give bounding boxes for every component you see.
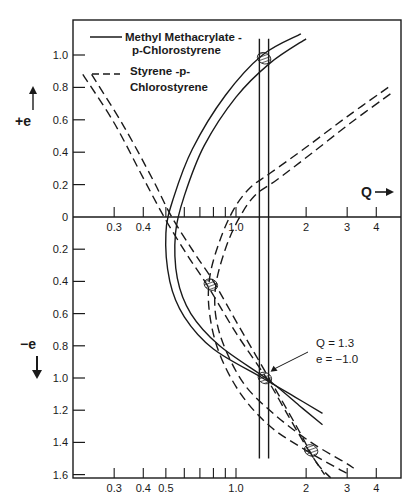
- y-tick-label: 1.2: [53, 404, 68, 416]
- up-arrow-icon: [29, 86, 37, 94]
- q-tick-label-middle: 4: [373, 221, 379, 233]
- q-tick-label-bottom: 1.0: [228, 482, 243, 494]
- y-tick-label: 0.2: [53, 243, 68, 255]
- hatched-intersection-region: [202, 277, 219, 293]
- negative-e-label: −e: [20, 336, 36, 352]
- positive-e-label: +e: [15, 113, 31, 129]
- labels: 1.00.80.60.40.200.20.40.60.81.01.21.41.6…: [15, 31, 394, 494]
- annotation-text: Q = 1.3: [316, 337, 354, 349]
- q-tick-label-middle: 0.4: [136, 221, 151, 233]
- q-tick-label-middle: 2: [303, 221, 309, 233]
- q-tick-label-bottom: 4: [373, 482, 379, 494]
- axes: [73, 55, 401, 478]
- down-arrow-icon: [32, 370, 42, 379]
- y-tick-label: 0.4: [53, 146, 68, 158]
- y-tick-label: 0.2: [53, 179, 68, 191]
- legend-label-line: Methyl Methacrylate -: [125, 31, 242, 43]
- y-tick-label: 0.6: [53, 114, 68, 126]
- y-tick-label: 0.8: [53, 340, 68, 352]
- legend-label-line: Styrene -p-: [130, 65, 190, 77]
- annotation-arrowhead-icon: [271, 366, 278, 372]
- y-tick-label: 0.8: [53, 81, 68, 93]
- dashed-curve-5: [92, 74, 331, 477]
- dashed-curve-6: [208, 87, 388, 474]
- y-tick-label: 1.6: [53, 469, 68, 481]
- y-tick-label: 1.4: [53, 436, 68, 448]
- y-tick-label: 0.4: [53, 275, 68, 287]
- plot-border: [73, 20, 401, 478]
- q-tick-label-middle: 0.3: [107, 221, 122, 233]
- q-tick-label-bottom: 0.3: [107, 482, 122, 494]
- y-tick-label: 0.6: [53, 308, 68, 320]
- y-tick-label: 1.0: [53, 49, 68, 61]
- highlighted-regions: [202, 50, 320, 458]
- annotation-text: e = −1.0: [316, 353, 358, 365]
- chart-canvas: 1.00.80.60.40.200.20.40.60.81.01.21.41.6…: [0, 0, 415, 502]
- legend-label-line: p-Chlorostyrene: [132, 44, 221, 56]
- q-tick-label-bottom: 3: [344, 482, 350, 494]
- q-tick-label-bottom: 0.5: [158, 482, 173, 494]
- plot-frame: [73, 20, 401, 478]
- dashed-curve-4: [83, 74, 325, 474]
- q-tick-label-bottom: 2: [303, 482, 309, 494]
- hatched-intersection-region: [302, 443, 319, 459]
- series-layer: [83, 34, 391, 478]
- right-arrow-icon: [386, 188, 394, 196]
- annotation-arrow-shaft: [275, 352, 308, 369]
- solid-curve-1: [175, 39, 323, 425]
- q-tick-label-middle: 3: [344, 221, 350, 233]
- y-tick-label: 0: [62, 211, 68, 223]
- legend-label-line: Chlorostyrene: [130, 81, 208, 93]
- q-axis-label: Q: [361, 184, 372, 200]
- q-tick-label-bottom: 0.4: [136, 482, 151, 494]
- q-tick-label-middle: 1.0: [228, 221, 243, 233]
- y-tick-label: 1.0: [53, 372, 68, 384]
